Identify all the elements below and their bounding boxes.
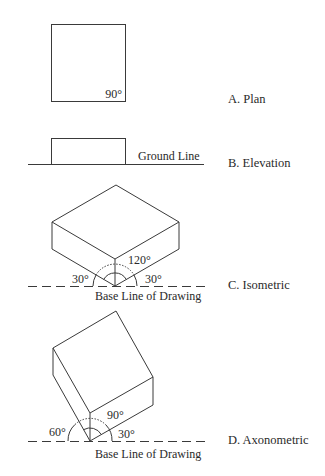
plan-view: 90° A. Plan	[52, 25, 267, 107]
elevation-view: Ground Line B. Elevation	[28, 139, 291, 171]
axo-arc-left	[68, 425, 75, 442]
axonometric-caption: D. Axonometric	[228, 433, 309, 447]
iso-arc-left	[93, 275, 96, 286]
elevation-rect	[52, 139, 126, 165]
iso-angle-left: 30°	[72, 272, 89, 286]
iso-base-label: Base Line of Drawing	[95, 289, 201, 303]
axonometric-top-face	[53, 311, 153, 413]
iso-angle-top: 120°	[128, 253, 151, 267]
axo-angle-top: 90°	[107, 408, 124, 422]
elevation-caption: B. Elevation	[228, 156, 291, 170]
iso-angle-right: 30°	[145, 272, 162, 286]
plan-caption: A. Plan	[228, 92, 266, 106]
axo-angle-left: 60°	[49, 425, 66, 439]
axo-arc-right	[106, 425, 112, 441]
projection-diagram: 90° A. Plan Ground Line B. Elevation 30°…	[0, 0, 325, 476]
iso-arc-right	[134, 275, 137, 286]
isometric-view: 30° 120° 30° Base Line of Drawing C. Iso…	[28, 185, 290, 303]
axonometric-view: 60° 90° 30° Base Line of Drawing D. Axon…	[28, 311, 309, 461]
ground-line-label: Ground Line	[138, 149, 200, 163]
plan-angle-label: 90°	[105, 87, 122, 101]
axo-angle-right: 30°	[118, 427, 135, 441]
axo-base-label: Base Line of Drawing	[95, 447, 201, 461]
isometric-top-face	[52, 185, 179, 259]
isometric-caption: C. Isometric	[228, 278, 290, 292]
